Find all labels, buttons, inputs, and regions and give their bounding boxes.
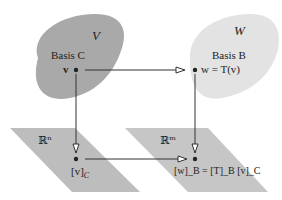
vector-w-label: w = T(v) <box>201 64 240 75</box>
coords-v-label: [v]C <box>71 166 89 180</box>
point-v <box>74 68 78 72</box>
rm-label: ℝᵐ <box>160 135 176 146</box>
point-v-coords <box>74 157 78 161</box>
space-w-label: W <box>234 24 245 37</box>
space-v-label: V <box>92 29 100 42</box>
basis-c-label: Basis C <box>51 50 85 61</box>
point-w-coords <box>193 157 197 161</box>
vector-v-label: v <box>63 64 69 75</box>
basis-b-label: Basis B <box>212 50 246 61</box>
rn-label: ℝⁿ <box>38 135 52 146</box>
coords-w-label: [w]_B = [T]_B [v]_C <box>174 166 260 176</box>
point-w <box>193 68 197 72</box>
